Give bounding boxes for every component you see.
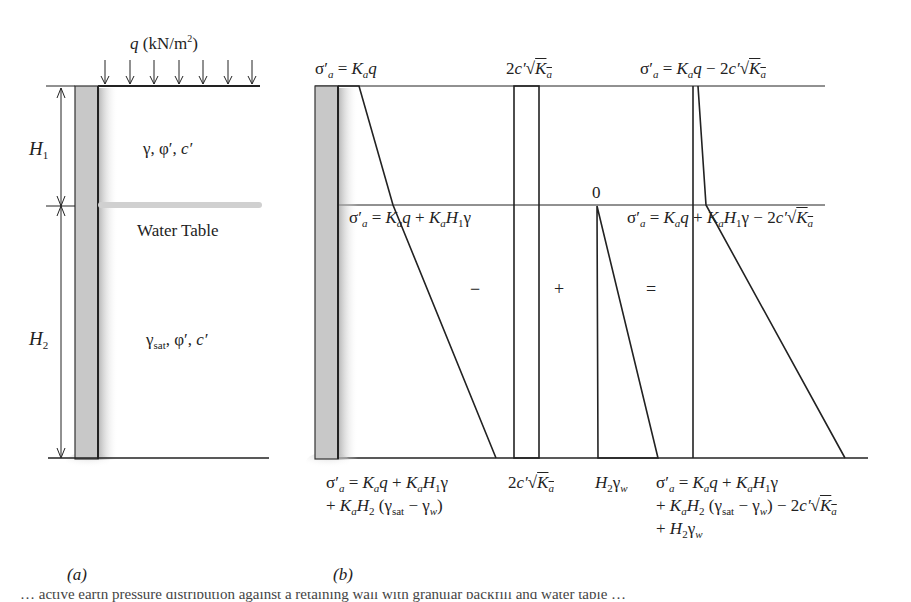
retaining-wall-a (75, 86, 98, 459)
mid-left-equation: σ′a = Kaq + KaH1γ (349, 209, 471, 232)
water-table-line (98, 202, 262, 208)
caption-b: (b) (333, 566, 353, 584)
cohesion-rectangle (514, 86, 539, 458)
top-left-equation: σ′a = Kaq (315, 60, 377, 83)
h2-label: H2 (29, 330, 48, 354)
water-table-label: Water Table (137, 222, 219, 240)
panel-a (46, 60, 269, 472)
result-pressure-profile (698, 86, 845, 458)
water-pressure-triangle (597, 206, 658, 458)
equals-operator: = (646, 280, 656, 298)
layer2-properties: γsat, φ′, c′ (146, 331, 208, 354)
minus-operator: − (470, 280, 480, 298)
mid-right-equation: σ′a = Kaq + KaH1γ − 2c′√Ka (627, 209, 813, 232)
top-mid-equation: 2c′√Ka (506, 60, 552, 83)
caption-a: (a) (67, 566, 87, 584)
h1-label: H1 (29, 140, 48, 164)
retaining-wall-b (315, 86, 338, 459)
dimension-lines (46, 86, 75, 458)
zero-label: 0 (592, 184, 601, 202)
layer1-properties: γ, φ′, c′ (143, 140, 192, 158)
bottom-left-equation: σ′a = Kaq + KaH1γ + KaH2 (γsat − γw) (326, 474, 448, 520)
top-right-equation: σ′a = Kaq − 2c′√Ka (640, 60, 766, 83)
surcharge-arrows (101, 60, 256, 84)
active-pressure-profile (338, 86, 496, 458)
plus-operator: + (554, 280, 564, 298)
surcharge-label: q (kN/m2) (130, 30, 198, 53)
panel-b (306, 86, 868, 472)
bottom-right-equation: σ′a = Kaq + KaH1γ + KaH2 (γsat − γw) − 2… (656, 474, 837, 543)
bottom-water-equation: H2γw (595, 474, 628, 497)
figure-caption-partial: … active earth pressure distribution aga… (0, 592, 911, 602)
bottom-mid-equation: 2c′√Ka (508, 474, 554, 497)
